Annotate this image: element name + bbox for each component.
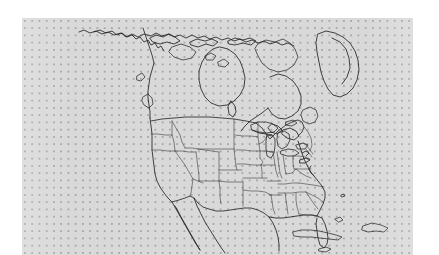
baffin-island-icon — [255, 39, 298, 72]
bahamas-icon — [335, 217, 343, 222]
ny-vt-nh-border-icon — [306, 149, 312, 157]
pacific-coast-group — [94, 28, 172, 202]
az-nm-border-icon — [219, 181, 221, 204]
arctic-coastline-group — [79, 30, 298, 72]
il-in-border-icon — [277, 152, 282, 178]
greenland-group — [316, 31, 359, 97]
gulf-of-california-mainland-icon — [194, 198, 225, 253]
nova-scotia-icon — [282, 128, 299, 140]
or-id-border-icon — [172, 135, 175, 151]
ne-ks-border-icon — [237, 164, 261, 165]
state-borders-west-group — [151, 121, 243, 206]
hudson-bay-coast-icon — [199, 47, 245, 106]
baja-peninsula-east-coast-icon — [175, 206, 200, 250]
arctic-mainland-coast-icon — [79, 30, 294, 46]
quebec-north-shore-icon — [241, 108, 268, 131]
haida-gwaii-icon — [137, 73, 145, 81]
oh-pa-border-icon — [293, 156, 294, 169]
alaska-yukon-border-icon — [143, 28, 154, 63]
al-ga-border-icon — [296, 193, 299, 214]
wy-ut-border-icon — [198, 149, 219, 152]
jamaica-icon — [319, 247, 331, 252]
in-oh-border-icon — [283, 155, 286, 174]
lake-huron-icon — [277, 131, 290, 149]
newfoundland-icon — [301, 107, 318, 124]
sd-ne-border-icon — [236, 150, 260, 151]
vancouver-island-icon — [142, 94, 153, 108]
wy-sd-ne-border-icon — [234, 149, 237, 170]
screenshot-root — [0, 0, 439, 255]
us-canada-49th-parallel-icon — [151, 117, 256, 123]
va-wv-md-border-icon — [296, 169, 311, 178]
ne-ia-mo-border-icon — [260, 158, 263, 165]
tx-la-border-icon — [271, 195, 275, 214]
labrador-coast-icon — [268, 74, 301, 119]
state-borders-east-group — [259, 127, 324, 216]
ca-nv-diagonal-icon — [175, 151, 193, 179]
ky-tn-border-icon — [278, 183, 299, 184]
map-panel[interactable] — [22, 18, 413, 255]
arctic-island-2-icon — [190, 39, 218, 47]
small-arctic-islet-b-icon — [218, 59, 229, 67]
id-nv-ut-border-icon — [175, 151, 196, 152]
nd-sd-border-icon — [235, 135, 258, 137]
oh-wv-ky-border-icon — [286, 169, 296, 174]
lake-erie-icon — [281, 149, 299, 156]
map-canvas[interactable] — [22, 18, 413, 255]
greenland-inner-detail-icon — [332, 38, 350, 84]
nm-co-border-icon — [219, 181, 243, 182]
florida-peninsula-icon — [316, 218, 328, 248]
ms-al-border-icon — [285, 193, 288, 214]
wa-or-border-icon — [151, 134, 172, 135]
nv-ut-border-icon — [196, 152, 199, 181]
sc-nc-border-icon — [306, 192, 323, 202]
us-pacific-coast-icon — [150, 118, 172, 202]
tn-ms-al-ga-border-icon — [278, 192, 306, 193]
mexico-gulf-coast-icon — [269, 217, 279, 251]
ga-sc-border-icon — [306, 192, 318, 209]
victoria-island-icon — [169, 44, 196, 60]
caribbean-group — [293, 194, 388, 252]
hispaniola-icon — [362, 223, 388, 232]
mexico-group — [172, 198, 279, 253]
ca-az-border-icon — [190, 179, 193, 196]
ks-mo-border-icon — [261, 165, 262, 178]
lake-ontario-icon — [296, 143, 308, 149]
british-columbia-coast-icon — [148, 63, 154, 118]
arctic-island-3-icon — [228, 38, 256, 45]
or-ca-border-icon — [152, 150, 175, 151]
ok-tx-border-icon — [243, 190, 271, 195]
id-wy-border-icon — [185, 148, 198, 149]
bermuda-dot-icon — [341, 194, 345, 197]
